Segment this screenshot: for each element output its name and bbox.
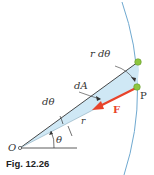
particle-upper [135,59,142,66]
r-pointer-icon [68,126,72,136]
figure-caption: Fig. 12.26 [6,158,49,169]
label-P: P [140,90,147,101]
radius-line-upper [20,62,138,148]
label-theta: θ [56,134,62,145]
label-dtheta: dθ [42,96,54,107]
label-r-dtheta: r dθ [90,48,110,59]
label-r: r [81,116,85,126]
label-dA: dA [74,80,88,91]
label-F: F [113,104,120,115]
origin-marker [18,146,21,149]
label-O: O [8,142,16,153]
